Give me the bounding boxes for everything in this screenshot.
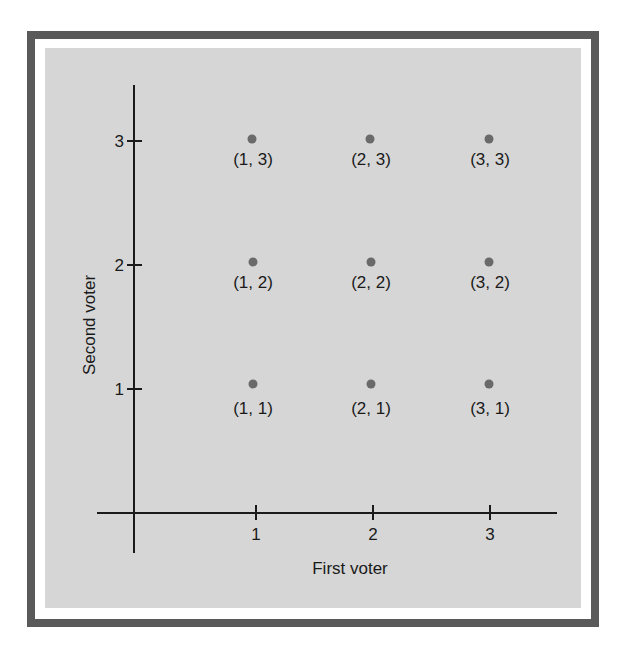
point-label: (1, 1) [233,399,273,419]
y-axis-title: Second voter [80,275,100,375]
x-tick-label: 2 [368,525,377,545]
point-3-1 [485,380,494,389]
point-label: (3, 2) [470,273,510,293]
point-label: (2, 2) [351,273,391,293]
point-1-1 [249,380,258,389]
point-2-1 [367,380,376,389]
point-3-3 [485,135,494,144]
x-tick-label: 1 [251,525,260,545]
point-label: (3, 3) [470,150,510,170]
x-axis-title: First voter [312,559,388,579]
point-3-2 [485,258,494,267]
point-1-3 [248,135,257,144]
point-label: (2, 1) [351,399,391,419]
point-1-2 [249,258,258,267]
y-tick-label: 3 [115,132,124,152]
point-label: (2, 3) [351,150,391,170]
x-tick-label: 3 [485,525,494,545]
point-2-3 [366,135,375,144]
y-tick-label: 1 [115,380,124,400]
point-label: (1, 3) [233,150,273,170]
point-2-2 [367,258,376,267]
point-label: (1, 2) [233,273,273,293]
y-tick-label: 2 [115,256,124,276]
point-label: (3, 1) [470,399,510,419]
